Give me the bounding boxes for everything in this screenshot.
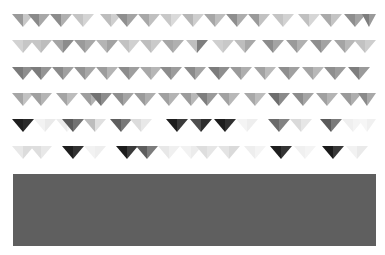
- pennant-right-half: [297, 40, 308, 53]
- pennant-left-half: [112, 93, 123, 106]
- pennant-right-half: [85, 67, 96, 80]
- pennant-left-half: [182, 14, 193, 27]
- pennant-right-half: [335, 67, 346, 80]
- pennant-left-half: [50, 14, 61, 27]
- pennant-left-half: [84, 119, 95, 132]
- pennant-left-half: [340, 93, 351, 106]
- pennant-left-half: [270, 146, 281, 159]
- pennant-left-half: [218, 93, 229, 106]
- pennant-right-half: [259, 14, 270, 27]
- pennant-left-half: [12, 93, 23, 106]
- pennant-left-half: [30, 93, 41, 106]
- pennant-right-half: [95, 146, 106, 159]
- pennant-right-half: [255, 146, 266, 159]
- pennant-right-half: [127, 146, 138, 159]
- pennant-left-half: [62, 146, 73, 159]
- pennant-right-half: [345, 40, 356, 53]
- pennant-left-half: [248, 14, 259, 27]
- pennant-rows: [12, 14, 376, 159]
- pennant-left-half: [298, 14, 309, 27]
- pennant-right-half: [237, 14, 248, 27]
- pennant-left-half: [294, 146, 305, 159]
- pennant-right-half: [255, 93, 266, 106]
- pennant-right-half: [309, 14, 320, 27]
- pennant-left-half: [278, 67, 289, 80]
- pennant-left-half: [52, 67, 63, 80]
- pennant-left-half: [358, 93, 367, 106]
- pennant-left-half: [160, 67, 171, 80]
- pennant-right-half: [101, 93, 112, 106]
- pennant-left-half: [354, 40, 365, 53]
- pennant-left-half: [184, 67, 195, 80]
- pennant-right-half: [359, 67, 370, 80]
- pennant-right-half: [141, 119, 152, 132]
- pennant-left-half: [12, 119, 23, 132]
- pennant-right-half: [67, 93, 78, 106]
- pennant-right-half: [171, 14, 182, 27]
- pennant-left-half: [236, 119, 247, 132]
- pennant-right-half: [313, 67, 324, 80]
- pennant-left-half: [140, 67, 151, 80]
- pennant-right-half: [41, 146, 52, 159]
- pennant-left-half: [234, 40, 245, 53]
- pennant-left-half: [80, 93, 91, 106]
- pennant-row-6: [12, 146, 368, 159]
- pennant-left-half: [358, 119, 367, 132]
- pennant-right-half: [207, 146, 218, 159]
- pennant-row-4: [12, 93, 376, 106]
- pennant-right-half: [229, 146, 240, 159]
- pennant-left-half: [116, 146, 127, 159]
- pennant-right-half: [223, 40, 234, 53]
- pennant-right-half: [219, 67, 230, 80]
- pennant-left-half: [244, 146, 255, 159]
- pennant-left-half: [324, 67, 335, 80]
- pennant-left-half: [322, 146, 333, 159]
- pennant-left-half: [96, 67, 107, 80]
- pennant-right-half: [129, 40, 140, 53]
- pennant-left-half: [230, 67, 241, 80]
- pennant-left-half: [118, 67, 129, 80]
- pennant-left-half: [110, 119, 121, 132]
- pennant-row-1: [12, 14, 376, 27]
- pennant-row-5: [12, 119, 376, 132]
- pennant-right-half: [207, 93, 218, 106]
- pennant-right-half: [327, 93, 338, 106]
- pennant-right-half: [169, 93, 180, 106]
- pennant-left-half: [208, 67, 219, 80]
- pennant-right-half: [145, 93, 156, 106]
- pennant-left-half: [190, 119, 201, 132]
- pennant-left-half: [30, 146, 41, 159]
- pennant-left-half: [12, 14, 23, 27]
- pennant-left-half: [180, 146, 191, 159]
- pennant-left-half: [180, 93, 191, 106]
- pennant-left-half: [346, 146, 357, 159]
- pennant-left-half: [84, 146, 95, 159]
- pennant-row-2: [12, 40, 376, 53]
- pennant-right-half: [173, 40, 184, 53]
- pennant-left-half: [262, 40, 273, 53]
- pennant-right-half: [149, 14, 160, 27]
- pennant-left-half: [292, 93, 303, 106]
- pennant-left-half: [342, 119, 353, 132]
- pennant-left-half: [72, 14, 83, 27]
- pennant-left-half: [158, 146, 169, 159]
- pennant-left-half: [52, 40, 63, 53]
- pennant-left-half: [290, 119, 301, 132]
- pennant-left-half: [30, 67, 41, 80]
- pennant-left-half: [74, 67, 85, 80]
- pennant-left-half: [302, 67, 313, 80]
- pennant-row-3: [12, 67, 370, 80]
- pennant-left-half: [100, 14, 111, 27]
- pennant-right-half: [63, 40, 74, 53]
- pennant-right-half: [303, 93, 314, 106]
- pennant-right-half: [169, 146, 180, 159]
- pennant-right-half: [195, 67, 206, 80]
- pennant-right-half: [171, 67, 182, 80]
- pennant-right-half: [129, 67, 140, 80]
- pennant-right-half: [367, 119, 376, 132]
- pennant-right-half: [321, 40, 332, 53]
- pennant-left-half: [218, 146, 229, 159]
- pennant-right-half: [197, 40, 208, 53]
- pennant-left-half: [96, 40, 107, 53]
- pennant-left-half: [12, 146, 23, 159]
